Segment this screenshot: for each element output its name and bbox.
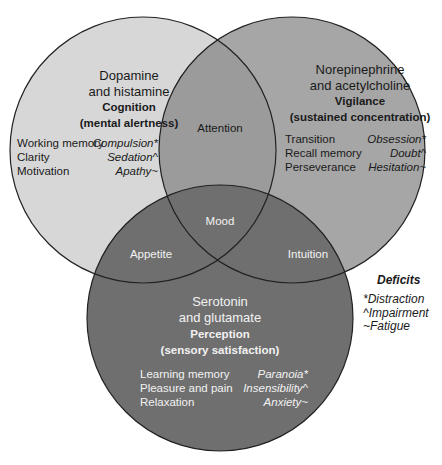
deficit-item: Compulsion*: [90, 136, 158, 150]
deficit-item: Paranoia*: [230, 367, 308, 381]
deficits-legend: Deficits *Distraction ^Impairment ~Fatig…: [363, 273, 429, 334]
deficit-item: Apathy~: [90, 164, 158, 178]
legend-item: ^Impairment: [363, 307, 429, 321]
cognition-deficits: Compulsion* Sedation^ Apathy~: [90, 136, 158, 178]
deficit-item: Doubt^: [350, 146, 426, 160]
vigilance-neurotransmitter-2: and acetylcholine: [280, 78, 440, 94]
perception-subtitle: (sensory satisfaction): [140, 343, 300, 357]
overlap-mood: Mood: [180, 214, 260, 228]
deficit-item: Sedation^: [90, 150, 158, 164]
legend-item: ~Fatigue: [363, 320, 429, 334]
perception-functions: Learning memory Pleasure and pain Relaxa…: [140, 367, 233, 409]
deficit-item: Hesitation~: [350, 160, 426, 174]
vigilance-title: Vigilance: [280, 94, 440, 108]
overlap-appetite: Appetite: [111, 247, 191, 261]
function-item: Learning memory: [140, 367, 233, 381]
deficit-item: Insensibility^: [230, 381, 308, 395]
perception-neurotransmitter-2: and glutamate: [140, 310, 300, 326]
perception-title: Perception: [140, 327, 300, 341]
deficit-item: Obsession*: [350, 132, 426, 146]
cognition-neurotransmitter-1: Dopamine: [40, 68, 218, 84]
function-item: Pleasure and pain: [140, 381, 233, 395]
deficit-item: Anxiety~: [230, 395, 308, 409]
overlap-intuition: Intuition: [268, 247, 348, 261]
perception-deficits: Paranoia* Insensibility^ Anxiety~: [230, 367, 308, 409]
cognition-title: Cognition: [40, 100, 218, 114]
cognition-neurotransmitter-2: and histamine: [40, 84, 218, 100]
vigilance-subtitle: (sustained concentration): [278, 110, 442, 124]
overlap-attention: Attention: [180, 121, 260, 135]
perception-neurotransmitter-1: Serotonin: [140, 294, 300, 310]
vigilance-neurotransmitter-1: Norepinephrine: [280, 62, 440, 78]
vigilance-deficits: Obsession* Doubt^ Hesitation~: [350, 132, 426, 174]
function-item: Relaxation: [140, 395, 233, 409]
legend-item: *Distraction: [363, 293, 429, 307]
legend-title: Deficits: [377, 273, 429, 288]
